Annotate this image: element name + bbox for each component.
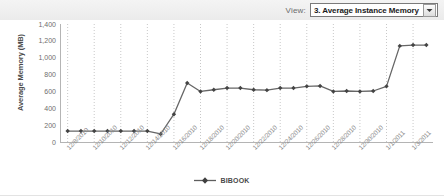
y-axis-tick-label: 1,000 (38, 54, 56, 61)
chart-legend: BIBOOK (0, 172, 444, 188)
y-axis-tick-label: 600 (44, 88, 56, 95)
bottom-divider (0, 195, 444, 196)
view-dropdown[interactable]: 3. Average Instance Memory (310, 3, 438, 17)
toolbar: View: 3. Average Instance Memory (0, 0, 444, 21)
y-axis-tick-label: 200 (44, 122, 56, 129)
line-diamond-marker-icon (194, 176, 216, 185)
legend-series-label: BIBOOK (220, 177, 249, 184)
chevron-down-icon[interactable] (423, 4, 436, 17)
view-dropdown-value: 3. Average Instance Memory (314, 6, 419, 15)
y-axis-tick-labels: 1,4001,2001,0008006004002000 (22, 20, 56, 144)
y-axis-tick-label: 1,400 (38, 21, 56, 28)
view-label: View: (286, 6, 306, 15)
chart-page: View: 3. Average Instance Memory Average… (0, 0, 444, 196)
view-selector-group: View: 3. Average Instance Memory (286, 2, 438, 18)
chart-container: Average Memory (MB) 1,4001,2001,00080060… (0, 20, 444, 196)
y-axis-tick-label: 1,200 (38, 37, 56, 44)
y-axis-tick-label: 0 (52, 139, 56, 146)
y-axis-tick-label: 800 (44, 71, 56, 78)
y-axis-tick-label: 400 (44, 105, 56, 112)
